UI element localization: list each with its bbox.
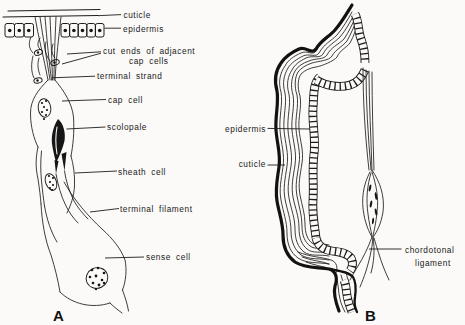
ligament-spindle-inner [372, 172, 378, 236]
scolopale-prong [62, 152, 67, 171]
cell-nucleus-dot [98, 29, 102, 33]
leader-cuticle-a [98, 15, 121, 16]
cuticle-line-upper [8, 10, 100, 12]
flap-edge [38, 58, 40, 75]
chordotonal-ligament-shape [350, 68, 389, 287]
sense-bottom-edge [60, 292, 110, 306]
cell-nucleus-dot [27, 29, 31, 33]
label-terminal-filament: terminal filament [120, 204, 193, 214]
cap-cell-left-edge [31, 80, 49, 147]
panel-a: cuticle epidermis cut ends of adjacent c… [3, 10, 195, 325]
ligament-fiber [372, 72, 374, 170]
flap-dot [53, 61, 55, 63]
label-ligament-line1: chordotonal [405, 245, 454, 255]
sheath-left-edge [36, 147, 41, 204]
label-terminal-strand: terminal strand [97, 71, 162, 81]
leader-scolopale [67, 127, 106, 129]
sheath-inner-wall [41, 151, 45, 206]
flap-dot [37, 51, 39, 53]
sense-upper-right-edge [64, 182, 126, 290]
scolopale-shape [52, 119, 67, 174]
label-epidermis-a: epidermis [123, 24, 164, 34]
cuticle-lines-a [3, 10, 100, 18]
scolopale-prong [55, 160, 59, 174]
epidermis-row-a [5, 24, 104, 38]
cap-cell-nucleus [37, 98, 52, 118]
sense-left-edge [41, 204, 60, 292]
cell-nucleus-dot [89, 29, 93, 33]
ligament-nucleus [369, 200, 372, 207]
cell-nucleus-dot [72, 29, 76, 33]
terminal-filament-threads [56, 171, 88, 223]
diagram-svg: cuticle epidermis cut ends of adjacent c… [0, 0, 465, 325]
sense-cell-shape [41, 182, 129, 313]
label-cut-ends-line2: cap cells [129, 56, 169, 66]
panel-letter-b: B [365, 307, 376, 324]
label-scolopale: scolopale [107, 122, 147, 132]
label-cuticle-b: cuticle [239, 159, 266, 169]
panel-letter-a: A [53, 307, 64, 324]
cell-nucleus-dot [8, 29, 12, 33]
flap-dot [36, 79, 38, 81]
label-sheath-cell: sheath cell [118, 167, 166, 177]
leader-sheath-cell [75, 171, 117, 173]
label-cap-cell: cap cell [108, 95, 143, 105]
panel-b: epidermis cuticle chordotonal ligament B [225, 5, 454, 324]
cell-nucleus-dot [17, 29, 21, 33]
sense-tail-right [123, 290, 129, 311]
cell-nucleus-dot [64, 29, 68, 33]
ligament-fan-fiber [360, 238, 373, 287]
label-ligament-line2: ligament [415, 258, 451, 268]
ligament-fan-fiber [374, 238, 389, 280]
cell-nucleus-dot [81, 29, 85, 33]
leader-epidermis-b [268, 128, 311, 129]
ligament-nucleus [372, 218, 375, 225]
flap-edge [32, 56, 34, 78]
leader-terminal-filament [90, 209, 119, 213]
cuticle-line-lower [3, 16, 98, 18]
sense-axon-line [110, 303, 122, 313]
leader-terminal-strand [52, 76, 95, 78]
label-cuticle-a: cuticle [124, 10, 151, 20]
ligament-nucleus [368, 184, 372, 191]
leader-cut-ends-2 [62, 53, 101, 64]
sense-inner-wall [45, 206, 58, 242]
label-sense-cell: sense cell [146, 252, 191, 262]
leader-cut-ends-1 [67, 52, 101, 54]
figure-canvas: cuticle epidermis cut ends of adjacent c… [0, 0, 465, 325]
flap-edge [29, 37, 33, 53]
label-epidermis-b: epidermis [225, 124, 266, 134]
label-cut-ends-line1: cut ends of adjacent [103, 46, 195, 56]
leader-sense-cell [105, 257, 144, 258]
sheath-right-edge [67, 156, 75, 213]
